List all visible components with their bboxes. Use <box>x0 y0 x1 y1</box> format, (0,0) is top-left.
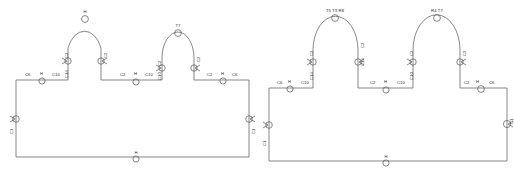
baseline-label: H <box>40 72 43 76</box>
baseline-label: C2 <box>370 81 376 85</box>
leg-label: C14 <box>361 58 365 66</box>
baseline-label: C10 <box>52 73 60 77</box>
left-loop-geometry <box>0 0 257 174</box>
baseline-label: H <box>384 80 387 84</box>
leg-label: C2 <box>158 60 162 66</box>
arch1-crown-label: T5 T3 R8 <box>326 9 344 13</box>
leg-label: C2 <box>104 52 108 58</box>
baseline-bubble-1 <box>39 78 45 84</box>
bottom-label: H <box>134 151 137 155</box>
leg-label: C2 <box>197 56 201 62</box>
leg-label: C2 <box>310 50 314 56</box>
panel-right-loop: T5 T3 R8 R4 T7 C6 H C10 C2 H C10 C2 H C6… <box>257 0 514 174</box>
baseline-bubble-3 <box>478 86 485 93</box>
leg-label: C14 <box>310 72 314 80</box>
bottom-label: H <box>384 155 387 159</box>
baseline-label: H <box>288 80 291 84</box>
leg-label: C2 <box>65 52 69 58</box>
arch2-crown-bubble <box>434 15 441 22</box>
baseline-bubble-1 <box>287 86 293 92</box>
baseline-label: C6 <box>232 73 238 77</box>
left-edge-label: C1 <box>263 140 267 146</box>
leg-label: C14 <box>65 70 69 78</box>
left-edge-label: C1 <box>10 128 14 134</box>
arch2-crown-label: T7 <box>175 24 180 28</box>
arch2-crown-label: R4 T7 <box>431 9 443 13</box>
baseline-label: C6 <box>277 81 283 85</box>
leg-label: C10 <box>158 72 162 80</box>
baseline-label: C10 <box>301 81 309 85</box>
baseline-label: C10 <box>397 81 405 85</box>
baseline-label: H <box>221 72 224 76</box>
baseline-label: C2 <box>120 73 126 77</box>
baseline-label: C2 <box>207 73 213 77</box>
right-edge-label: C1 <box>252 128 256 134</box>
leg-label: C2 <box>410 50 414 56</box>
arch1-crown-bubble <box>82 16 89 23</box>
baseline-bubble-3 <box>220 78 226 84</box>
baseline-label: C6 <box>25 73 31 77</box>
drawing-canvas: H T7 C6 H C10 C2 H C10 C2 H C6 C2 C14 C2… <box>0 0 514 174</box>
baseline-label: C10 <box>145 73 153 77</box>
leg-label: C2 <box>361 42 365 48</box>
arch2-crown <box>162 32 194 58</box>
baseline-label: H <box>476 80 479 84</box>
panel-left-loop: H T7 C6 H C10 C2 H C10 C2 H C6 C2 C14 C2… <box>0 0 257 174</box>
leg-label: C2 <box>463 50 467 56</box>
leg-label: C10 <box>410 72 414 80</box>
arch1-crown-label: H <box>83 10 86 14</box>
arch2-crown-bubble <box>175 30 182 37</box>
right-loop-geometry <box>257 0 514 174</box>
arch1-crown <box>68 31 101 48</box>
right-edge-label: C1 <box>510 118 514 124</box>
baseline-label: C6 <box>489 81 495 85</box>
arch1-crown-bubble <box>332 15 339 22</box>
baseline-label: H <box>134 72 137 76</box>
arch2-crown <box>413 15 460 50</box>
baseline-label: C2 <box>464 81 470 85</box>
